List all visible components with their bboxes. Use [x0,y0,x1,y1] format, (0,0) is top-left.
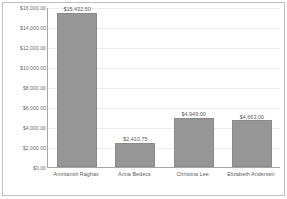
bar-slot: $2,410.75 [106,8,164,167]
bar-value-label: $2,410.75 [123,136,147,142]
y-axis-tick-label: $2,000.00 [0,145,46,151]
bar-value-label: $4,949.00 [181,111,205,117]
bar-value-label: $15,432.50 [63,6,90,12]
bar-christina-lee[interactable] [174,118,214,168]
y-axis-tick-label: $8,000.00 [0,85,46,91]
y-axis-tick-label: $4,000.00 [0,125,46,131]
x-axis-tick-label: Amritansh Raghav [47,170,105,178]
bar-anna-bedecs[interactable] [115,143,155,167]
plot-area: $15,432.50 $2,410.75 $4,949.00 $4,663.00 [47,8,280,168]
x-axis-tick-label: Elizabeth Andersen [222,170,280,178]
bar-elizabeth-andersen[interactable] [232,120,272,167]
y-axis-tick-label: $0.00 [0,165,46,171]
y-axis-tick-label: $12,000.00 [0,45,46,51]
x-axis-tick-label: Christina Lee [164,170,222,178]
y-axis-tick-label: $16,000.00 [0,5,46,11]
bar-value-label: $4,663.00 [240,114,264,120]
y-axis-tick-label: $6,000.00 [0,105,46,111]
x-axis-tick-label: Anna Bedecs [105,170,163,178]
bar-slot: $15,432.50 [48,8,106,167]
bar-amritansh-raghav[interactable] [57,13,97,167]
y-axis-tick-label: $10,000.00 [0,65,46,71]
bar-slot: $4,663.00 [223,8,281,167]
y-axis-tick-label: $14,000.00 [0,25,46,31]
bar-chart-figure: $16,000.00 $14,000.00 $12,000.00 $10,000… [0,0,287,199]
bar-slot: $4,949.00 [165,8,223,167]
x-axis: Amritansh Raghav Anna Bedecs Christina L… [47,170,280,182]
